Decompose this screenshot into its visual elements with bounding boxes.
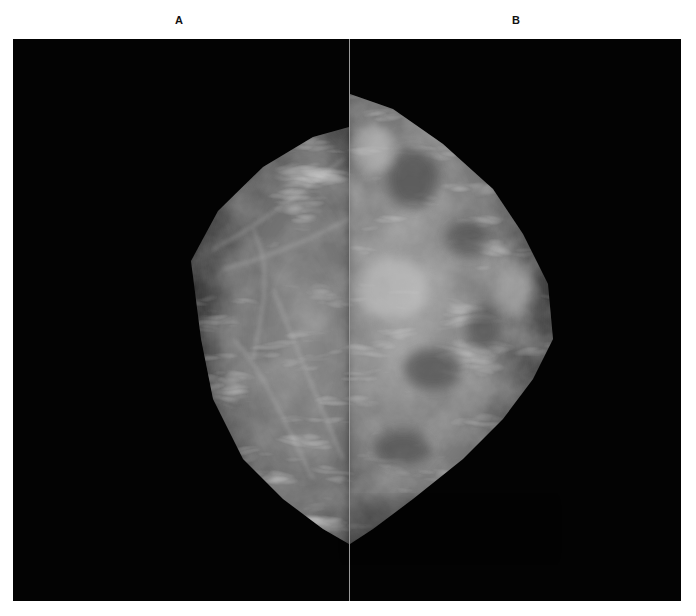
panel-label-a: A — [175, 14, 183, 26]
panel-divider — [349, 39, 350, 601]
mammogram-image — [13, 39, 681, 601]
mammogram-figure — [13, 39, 681, 601]
panel-a-tissue — [173, 119, 353, 559]
panel-label-b: B — [512, 14, 520, 26]
panel-b-tissue — [343, 89, 563, 559]
